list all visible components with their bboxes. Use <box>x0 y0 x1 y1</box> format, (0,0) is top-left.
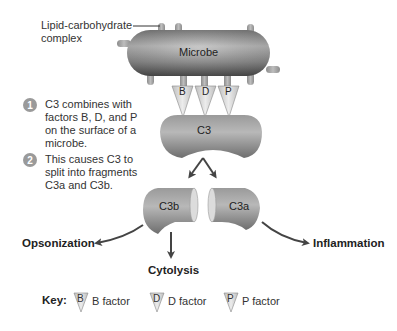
c3a-label: C3a <box>229 200 249 212</box>
outcome-cytolysis: Cytolysis <box>148 264 199 276</box>
callout-label-line1: Lipid-carbohydrate <box>41 19 132 32</box>
step-2: 2 This causes C3 to split into fragments… <box>23 153 145 192</box>
split-arrows <box>190 158 215 176</box>
key-b-letter: B <box>77 292 84 305</box>
key-d-letter: D <box>153 292 160 305</box>
step-1: 1 C3 combines with factors B, D, and P o… <box>23 98 145 150</box>
c3-shape <box>160 115 262 158</box>
key-d-label: D factor <box>168 295 207 308</box>
key-p-label: P factor <box>242 295 280 308</box>
step-1-number-badge: 1 <box>23 98 37 112</box>
factor-b-letter: B <box>179 86 186 97</box>
outcome-opsonization: Opsonization <box>22 237 95 249</box>
outcome-inflammation: Inflammation <box>313 237 385 249</box>
c3-label: C3 <box>197 124 211 136</box>
microbe-label: Microbe <box>179 46 218 58</box>
factor-p-letter: P <box>225 86 232 97</box>
callout-label-line2: complex <box>41 32 132 45</box>
factor-d-letter: D <box>202 86 209 97</box>
key-title: Key: <box>42 294 67 306</box>
key-p-letter: P <box>227 292 234 305</box>
step-2-number-badge: 2 <box>23 153 37 167</box>
outcome-arrows <box>97 222 307 256</box>
key-b-label: B factor <box>92 295 130 308</box>
step-2-text: This causes C3 to split into fragments C… <box>45 153 145 192</box>
step-1-text: C3 combines with factors B, D, and P on … <box>45 98 145 150</box>
callout-label: Lipid-carbohydrate complex <box>41 19 132 45</box>
c3b-label: C3b <box>159 200 179 212</box>
